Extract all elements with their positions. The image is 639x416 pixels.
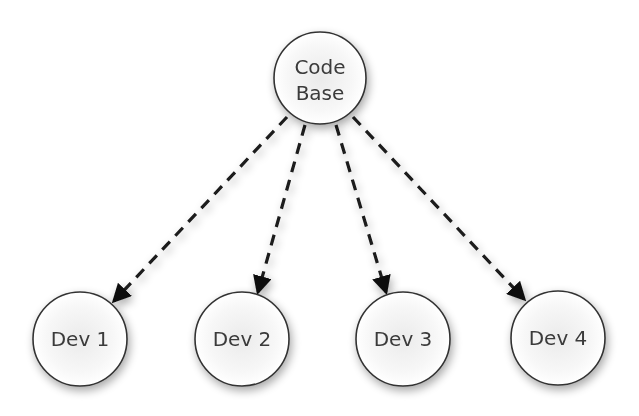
diagram-canvas: Code Base Dev 1 Dev 2 Dev 3 Dev 4 [0, 0, 639, 416]
node-dev-4-label: Dev 4 [529, 326, 588, 350]
node-code-base-label-line-2: Base [296, 81, 345, 105]
node-dev-4: Dev 4 [511, 291, 605, 385]
edge-code-base-to-dev-3 [336, 125, 386, 292]
edge-code-base-to-dev-1 [114, 117, 287, 301]
node-dev-1-label: Dev 1 [51, 327, 110, 351]
edge-code-base-to-dev-2 [258, 125, 305, 292]
node-dev-1: Dev 1 [33, 292, 127, 386]
node-dev-3: Dev 3 [356, 292, 450, 386]
node-dev-3-label: Dev 3 [374, 327, 433, 351]
edges [114, 117, 524, 301]
node-dev-2: Dev 2 [195, 292, 289, 386]
node-code-base-label-line-1: Code [294, 55, 345, 79]
node-dev-2-label: Dev 2 [213, 327, 272, 351]
node-code-base: Code Base [274, 32, 366, 124]
